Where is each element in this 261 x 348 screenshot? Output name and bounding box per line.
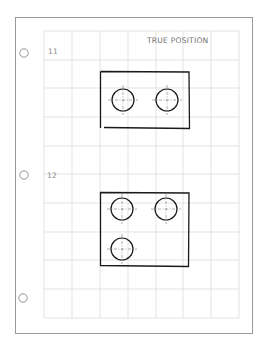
drawing-sheet bbox=[0, 0, 261, 348]
sheet-title: TRUE POSITION bbox=[147, 37, 208, 45]
problem-number-12: 12 bbox=[47, 172, 57, 180]
problem-number-11: 11 bbox=[48, 48, 58, 56]
